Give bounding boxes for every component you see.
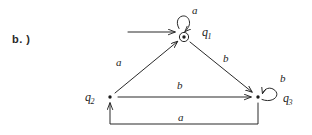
edge-label-q3-q3: b <box>280 73 286 84</box>
edge-label-q3-q2: a <box>178 112 184 123</box>
transition-q3-q3-b <box>262 88 277 100</box>
transition-q1-q3-b <box>190 42 252 92</box>
edge-label-q2-q3: b <box>177 80 183 91</box>
state-label-q3: q3 <box>283 92 293 107</box>
transition-q3-q2-a <box>110 103 258 124</box>
transition-q1-q1-a <box>177 16 189 32</box>
state-label-q1: q1 <box>202 26 212 41</box>
automaton-figure: b. ) <box>0 0 312 135</box>
state-nodes <box>108 32 259 98</box>
edge-label-q1-q3: b <box>223 53 229 64</box>
state-label-q2: q2 <box>85 91 95 106</box>
edge-label-q1-q1: a <box>192 5 198 16</box>
state-q2-dot <box>108 95 111 98</box>
automaton-diagram-svg <box>0 0 312 135</box>
state-q3-dot <box>256 95 259 98</box>
transition-q2-q1-a <box>115 42 178 94</box>
state-q1-dot <box>182 35 185 38</box>
edge-label-q2-q1: a <box>116 57 122 68</box>
